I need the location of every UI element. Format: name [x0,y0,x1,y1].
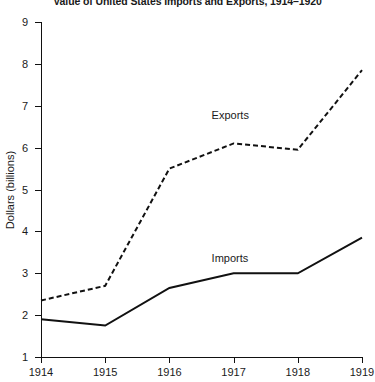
x-tick-label-1915: 1915 [83,366,127,378]
chart-container: Value of United States Imports and Expor… [0,0,375,382]
series-label-exports: Exports [212,110,249,121]
series-plot [41,22,363,358]
series-line-exports [41,70,362,300]
y-tick-label-9: 9 [4,17,28,28]
y-tick-label-1: 1 [4,352,28,363]
y-tick-label-4: 4 [4,226,28,237]
series-label-imports: Imports [212,253,249,264]
y-tick-label-6: 6 [4,143,28,154]
x-tick-label-1914: 1914 [19,366,63,378]
x-tick-label-1916: 1916 [147,366,191,378]
y-tick-label-5: 5 [4,185,28,196]
x-tick-label-1919: 1919 [340,366,375,378]
y-tick-label-7: 7 [4,101,28,112]
y-tick-label-2: 2 [4,310,28,321]
y-tick-label-3: 3 [4,268,28,279]
y-tick-label-8: 8 [4,59,28,70]
x-tick-label-1917: 1917 [212,366,256,378]
chart-title: Value of United States Imports and Expor… [0,0,375,7]
x-tick-label-1918: 1918 [276,366,320,378]
series-line-imports [41,238,362,326]
